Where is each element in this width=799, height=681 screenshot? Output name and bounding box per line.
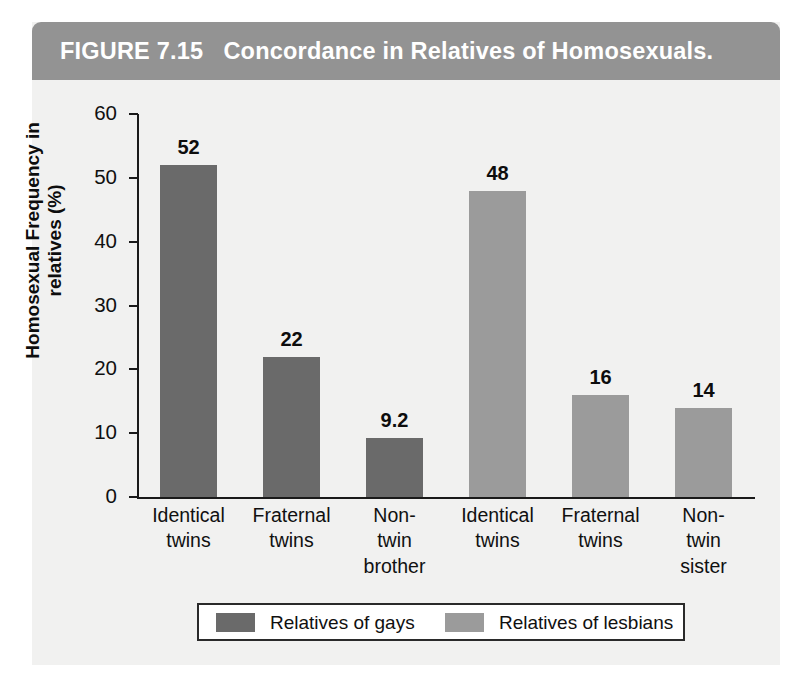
figure-title-banner: FIGURE 7.15 Concordance in Relatives of …: [32, 22, 780, 80]
legend-swatch-gays: [216, 613, 255, 632]
figure-container: FIGURE 7.15 Concordance in Relatives of …: [0, 0, 799, 681]
legend-label-gays: Relatives of gays: [270, 613, 415, 632]
legend-entry-gays: Relatives of gays: [216, 605, 415, 639]
figure-background: [32, 22, 780, 665]
figure-title-text: FIGURE 7.15 Concordance in Relatives of …: [60, 38, 713, 65]
figure-caption-label: Concordance in Relatives of Homosexuals.: [223, 38, 713, 64]
figure-number-label: FIGURE 7.15: [60, 38, 203, 64]
legend-label-lesbians: Relatives of lesbians: [499, 613, 673, 632]
legend-swatch-lesbians: [445, 613, 484, 632]
chart-legend: Relatives of gays Relatives of lesbians: [197, 603, 685, 641]
legend-entry-lesbians: Relatives of lesbians: [445, 605, 673, 639]
